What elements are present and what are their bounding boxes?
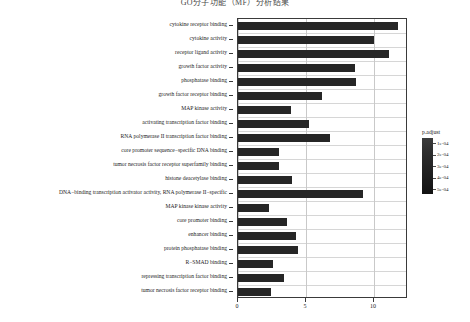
y-axis-tick	[229, 277, 233, 278]
legend-tick-label: 1e-04	[437, 141, 448, 146]
legend-tick-label: 3e-04	[437, 164, 448, 169]
y-axis-label: R−SMAD binding	[185, 260, 227, 266]
bar	[238, 176, 292, 185]
bar-row	[238, 22, 406, 31]
bar	[238, 92, 322, 101]
go-enrichment-bar-chart: GO分子功能（MF）分析结果 cytokine receptor binding…	[0, 0, 470, 322]
legend-tick-label: 2e-04	[437, 152, 448, 157]
x-axis-tick-label: 5	[295, 303, 315, 309]
bar-row	[238, 204, 406, 213]
y-axis-label: tumor necrosis factor receptor superfami…	[113, 162, 227, 168]
bar-row	[238, 106, 406, 115]
y-axis-label: histone deacetylase binding	[165, 176, 227, 182]
y-axis-tick	[229, 249, 233, 250]
bar-row	[238, 232, 406, 241]
y-axis-label: cytokine receptor binding	[170, 22, 227, 28]
bar	[238, 106, 291, 115]
bar-row	[238, 36, 406, 45]
legend-tick-label: 4e-04	[437, 175, 448, 180]
y-axis-tick	[229, 39, 233, 40]
y-axis-tick	[229, 67, 233, 68]
y-axis-label: receptor ligand activity	[175, 50, 227, 56]
bar	[238, 190, 363, 199]
y-axis-label: core promoter binding	[177, 218, 227, 224]
x-axis-tick	[305, 298, 306, 302]
legend-tick	[433, 178, 436, 179]
y-axis-tick	[229, 221, 233, 222]
legend-tick	[433, 166, 436, 167]
bar	[238, 78, 356, 87]
bar-row	[238, 274, 406, 283]
bar-row	[238, 50, 406, 59]
legend-tick	[433, 143, 436, 144]
y-axis-tick	[229, 123, 233, 124]
bar-series	[238, 19, 406, 297]
bar	[238, 162, 279, 171]
y-axis-label: cytokine activity	[190, 36, 227, 42]
y-axis-tick	[229, 109, 233, 110]
chart-title: GO分子功能（MF）分析结果	[0, 0, 470, 7]
y-axis-label: tumor necrosis factor receptor binding	[141, 288, 227, 294]
legend-tick-label: 5e-04	[437, 187, 448, 192]
plot-panel	[237, 18, 407, 298]
bar-row	[238, 260, 406, 269]
y-axis-label-group: cytokine receptor bindingcytokine activi…	[0, 18, 233, 298]
y-axis-label: protein phosphatase binding	[164, 246, 227, 252]
y-axis-tick	[229, 53, 233, 54]
bar	[238, 260, 273, 269]
bar	[238, 50, 389, 59]
y-axis-tick	[229, 235, 233, 236]
y-axis-tick	[229, 137, 233, 138]
bar-row	[238, 92, 406, 101]
bar	[238, 274, 284, 283]
x-axis-tick	[237, 298, 238, 302]
bar-row	[238, 176, 406, 185]
y-axis-tick	[229, 165, 233, 166]
legend-tick	[433, 189, 436, 190]
bar-row	[238, 246, 406, 255]
bar	[238, 218, 287, 227]
y-axis-label: MAP kinase activity	[181, 106, 227, 112]
y-axis-tick	[229, 193, 233, 194]
y-axis-label: DNA−binding transcription activator acti…	[59, 190, 227, 196]
y-axis-tick	[229, 95, 233, 96]
bar-row	[238, 64, 406, 73]
y-axis-label: phosphatase binding	[181, 78, 227, 84]
legend-title: p.adjust	[422, 129, 470, 135]
bar-row	[238, 134, 406, 143]
bar-row	[238, 162, 406, 171]
y-axis-label: enhancer binding	[188, 232, 227, 238]
bar-row	[238, 288, 406, 297]
bar	[238, 36, 374, 45]
y-axis-label: activating transcription factor binding	[142, 120, 227, 126]
bar-row	[238, 218, 406, 227]
bar-row	[238, 190, 406, 199]
bar-row	[238, 78, 406, 87]
y-axis-label: core promoter sequence−specific DNA bind…	[121, 148, 227, 154]
y-axis-label: MAP kinase kinase activity	[166, 204, 227, 210]
bar	[238, 232, 296, 241]
y-axis-tick	[229, 81, 233, 82]
legend-tick	[433, 155, 436, 156]
legend-p-adjust: p.adjust 1e-042e-043e-044e-045e-04	[421, 129, 470, 196]
bar	[238, 148, 279, 157]
legend-colorbar	[422, 138, 433, 194]
bar	[238, 288, 271, 297]
y-axis-label: growth factor receptor binding	[159, 92, 228, 98]
bar	[238, 120, 309, 129]
y-axis-tick	[229, 291, 233, 292]
y-axis-tick	[229, 151, 233, 152]
y-axis-label: repressing transcription factor binding	[141, 274, 227, 280]
y-axis-label: RNA polymerase II transcription factor b…	[121, 134, 227, 140]
bar	[238, 204, 269, 213]
bar	[238, 64, 355, 73]
y-axis-tick	[229, 179, 233, 180]
y-axis-label: growth factor activity	[179, 64, 227, 70]
legend-body: 1e-042e-043e-044e-045e-04	[421, 138, 470, 196]
x-axis-tick	[373, 298, 374, 302]
x-axis-tick-label: 0	[227, 303, 247, 309]
y-axis-tick	[229, 263, 233, 264]
x-axis-tick-label: 10	[363, 303, 383, 309]
bar	[238, 22, 398, 31]
bar	[238, 246, 298, 255]
